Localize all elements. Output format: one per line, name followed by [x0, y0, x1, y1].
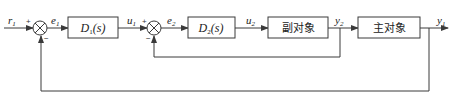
sj1-minus-sign: − [44, 34, 49, 43]
block-primary-plant-label: 主对象 [373, 21, 406, 35]
sj2-plus-sign: + [142, 17, 147, 26]
block-diagram: r1 + − e1 D1(s) u1 + − e2 D2(s) u2 副对象 y… [0, 0, 461, 97]
sj2-minus-sign: − [146, 34, 151, 43]
label-u2: u2 [246, 14, 256, 28]
summing-junction-1 [33, 21, 47, 35]
label-y2: y2 [334, 14, 344, 28]
block-d2-label: D2(s) [198, 21, 224, 36]
block-secondary-plant-label: 副对象 [282, 21, 315, 35]
summing-junction-2 [147, 21, 161, 35]
block-d1-label: D1(s) [80, 21, 106, 36]
label-e1: e1 [51, 14, 59, 28]
label-u1: u1 [127, 14, 136, 28]
sj1-plus-sign: + [26, 17, 31, 26]
label-y1: y1 [436, 14, 445, 28]
label-e2: e2 [167, 14, 176, 28]
label-r1: r1 [8, 14, 16, 28]
